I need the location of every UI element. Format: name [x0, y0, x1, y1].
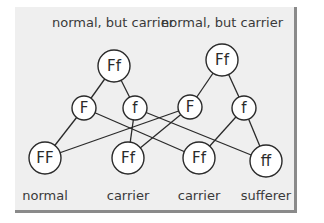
offspring-node-o1: FF: [29, 142, 61, 174]
offspring-phenotype-label: carrier: [107, 188, 150, 203]
gamete-node-g2: f: [123, 96, 147, 120]
genotype-label: FF: [36, 149, 53, 167]
parent-phenotype-label: normal, but carrier: [161, 15, 284, 30]
genetic-inheritance-diagram: FfFfFfFfFFFfFfff normal, but carriernorm…: [0, 0, 324, 223]
offspring-phenotype-label: normal: [22, 188, 68, 203]
genotype-label: ff: [261, 152, 272, 170]
genotype-label: F: [80, 99, 89, 117]
parent-node-p2: Ff: [206, 44, 238, 76]
gamete-node-g4: f: [232, 96, 256, 120]
offspring-node-o3: Ff: [183, 142, 215, 174]
parent-node-p1: Ff: [98, 50, 130, 82]
offspring-node-o4: ff: [250, 145, 282, 177]
genotype-label: f: [241, 99, 247, 117]
offspring-phenotype-label: sufferer: [241, 188, 292, 203]
gamete-node-g1: F: [72, 96, 96, 120]
genotype-label: F: [186, 98, 195, 116]
genotype-label: Ff: [121, 149, 136, 167]
parent-phenotype-label: normal, but carrier: [52, 15, 175, 30]
gamete-node-g3: F: [178, 95, 202, 119]
genotype-label: f: [132, 99, 138, 117]
offspring-phenotype-label: carrier: [178, 188, 221, 203]
genotype-label: Ff: [215, 51, 230, 69]
genotype-label: Ff: [107, 57, 122, 75]
genotype-nodes: FfFfFfFfFFFfFfff: [29, 44, 282, 177]
offspring-node-o2: Ff: [112, 142, 144, 174]
genotype-label: Ff: [192, 149, 207, 167]
